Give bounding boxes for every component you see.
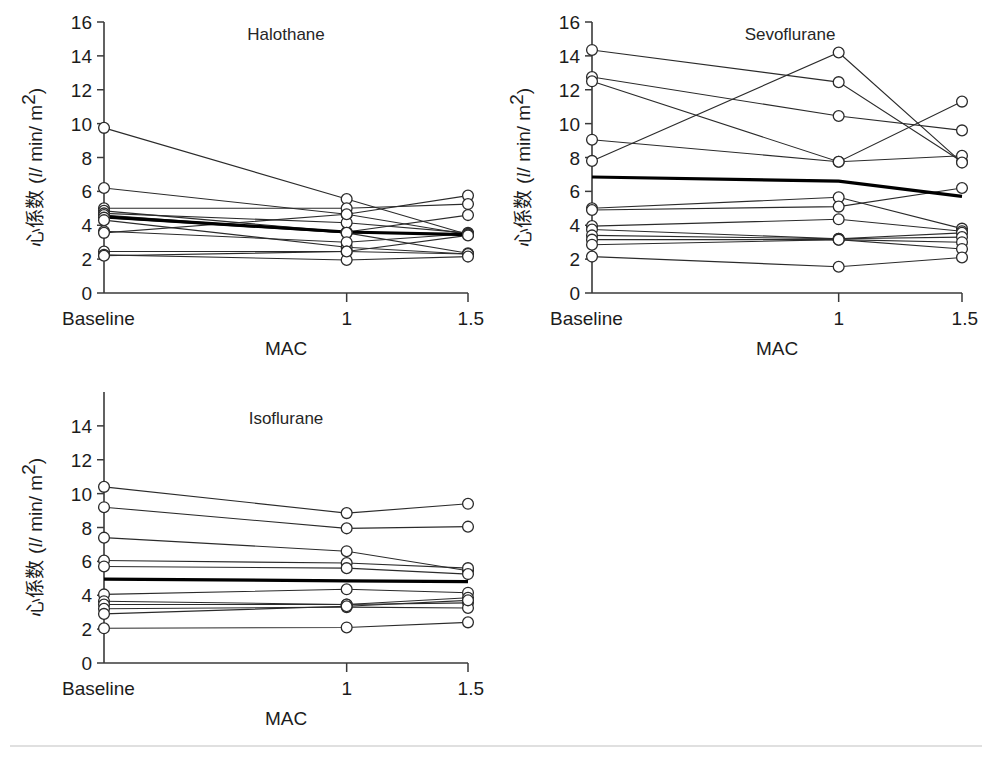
data-point-marker — [833, 214, 844, 225]
y-tick-label: 10 — [71, 114, 92, 135]
data-point-marker — [99, 122, 110, 133]
y-tick-label: 12 — [71, 80, 92, 101]
data-point-marker — [833, 111, 844, 122]
data-point-marker — [957, 125, 968, 136]
x-tick-label: 1.5 — [458, 678, 484, 699]
y-axis-title-cjk: 心係数 — [512, 184, 534, 247]
y-tick-label: 8 — [81, 148, 92, 169]
x-tick-label: 1 — [341, 678, 352, 699]
data-point-marker — [833, 201, 844, 212]
data-point-marker — [463, 498, 474, 509]
data-point-marker — [341, 601, 352, 612]
y-tick-label: 16 — [559, 12, 580, 33]
data-point-marker — [341, 563, 352, 574]
panel-title-sevoflurane: Sevoflurane — [745, 25, 836, 44]
y-axis-title-paren-close: ) — [513, 88, 534, 94]
y-tick-label: 4 — [81, 215, 92, 236]
x-tick-label: Baseline — [62, 678, 135, 699]
y-tick-label: 8 — [569, 148, 580, 169]
data-point-marker — [99, 183, 110, 194]
y-axis-title-paren-close: ) — [25, 88, 46, 94]
data-point-marker — [463, 595, 474, 606]
x-tick-label: Baseline — [550, 308, 623, 329]
y-tick-label: 0 — [569, 283, 580, 304]
y-tick-label: 6 — [569, 181, 580, 202]
y-tick-label: 10 — [71, 484, 92, 505]
y-tick-label: 8 — [81, 518, 92, 539]
data-point-marker — [463, 210, 474, 221]
x-tick-label: 1.5 — [952, 308, 978, 329]
data-point-marker — [833, 261, 844, 272]
data-point-marker — [99, 608, 110, 619]
y-tick-label: 2 — [81, 249, 92, 270]
y-axis-title-superscript: 2 — [18, 464, 39, 475]
data-point-marker — [587, 134, 598, 145]
data-point-marker — [99, 532, 110, 543]
data-point-marker — [833, 234, 844, 245]
figure-root: 0246810121416Baseline11.5MAC心係数 (l/ min/… — [0, 0, 992, 760]
data-point-marker — [957, 252, 968, 263]
data-point-marker — [957, 183, 968, 194]
y-tick-label: 0 — [81, 653, 92, 674]
data-point-marker — [463, 569, 474, 580]
y-tick-label: 12 — [559, 80, 580, 101]
y-axis-title-cjk: 心係数 — [24, 184, 46, 247]
x-axis-title: MAC — [265, 708, 307, 729]
data-point-marker — [99, 502, 110, 513]
data-point-marker — [833, 77, 844, 88]
y-axis-title-superscript: 2 — [506, 94, 527, 105]
data-point-marker — [99, 561, 110, 572]
data-point-marker — [463, 617, 474, 628]
x-tick-label: 1 — [341, 308, 352, 329]
data-point-marker — [341, 584, 352, 595]
data-point-marker — [463, 251, 474, 262]
data-point-marker — [833, 47, 844, 58]
data-point-marker — [587, 251, 598, 262]
x-tick-label: 1 — [833, 308, 844, 329]
y-tick-label: 4 — [569, 215, 580, 236]
x-tick-label: Baseline — [62, 308, 135, 329]
y-tick-label: 14 — [71, 46, 93, 67]
y-tick-label: 12 — [71, 450, 92, 471]
x-tick-label: 1.5 — [458, 308, 484, 329]
y-axis-title-cjk: 心係数 — [24, 554, 46, 617]
data-point-marker — [341, 546, 352, 557]
y-tick-label: 14 — [71, 416, 93, 437]
data-point-marker — [341, 523, 352, 534]
data-point-marker — [587, 205, 598, 216]
data-point-marker — [341, 508, 352, 519]
data-point-marker — [833, 156, 844, 167]
y-tick-label: 10 — [559, 114, 580, 135]
y-axis-title-superscript: 2 — [18, 94, 39, 105]
data-point-marker — [99, 623, 110, 634]
data-point-marker — [463, 521, 474, 532]
data-point-marker — [957, 157, 968, 168]
data-point-marker — [99, 481, 110, 492]
y-axis-title-permin-perm2: / min/ m — [25, 105, 46, 173]
data-point-marker — [99, 227, 110, 238]
data-point-marker — [99, 215, 110, 226]
data-point-marker — [341, 622, 352, 633]
y-tick-label: 16 — [71, 12, 92, 33]
y-tick-label: 4 — [81, 585, 92, 606]
data-point-marker — [587, 155, 598, 166]
data-point-marker — [463, 199, 474, 210]
data-point-marker — [957, 96, 968, 107]
y-tick-label: 0 — [81, 283, 92, 304]
data-point-marker — [341, 209, 352, 220]
data-point-marker — [587, 239, 598, 250]
y-tick-label: 14 — [559, 46, 581, 67]
x-axis-title: MAC — [265, 338, 307, 359]
y-tick-label: 2 — [569, 249, 580, 270]
y-axis-title-paren-close: ) — [25, 458, 46, 464]
panel-title-isoflurane: Isoflurane — [249, 409, 324, 428]
data-point-marker — [587, 45, 598, 56]
y-tick-label: 2 — [81, 619, 92, 640]
data-point-marker — [463, 230, 474, 241]
data-point-marker — [341, 246, 352, 257]
y-tick-label: 6 — [81, 551, 92, 572]
panel-title-halothane: Halothane — [247, 25, 325, 44]
y-tick-label: 6 — [81, 181, 92, 202]
y-axis-title-permin-perm2: / min/ m — [25, 475, 46, 543]
x-axis-title: MAC — [756, 338, 798, 359]
